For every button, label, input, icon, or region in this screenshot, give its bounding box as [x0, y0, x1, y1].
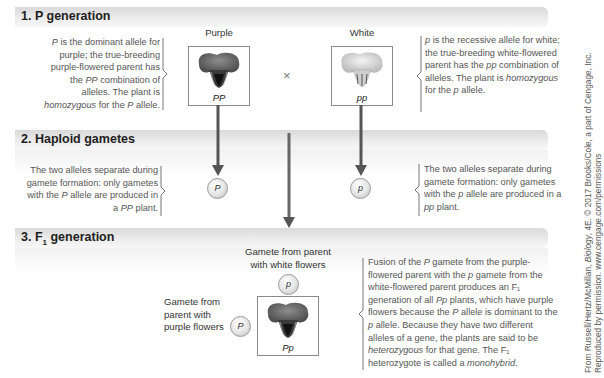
purple-flower-icon [264, 300, 312, 340]
left-brace-icon [162, 38, 168, 110]
to-f1-arrow-icon [283, 133, 295, 229]
section-number: 3. [21, 230, 31, 244]
white-to-gamete-arrow-icon [355, 105, 367, 177]
p-recessive-gamete-description: The two alleles separate during gamete f… [424, 163, 564, 213]
p-gamete-description: The two alleles separate during gamete f… [20, 164, 158, 214]
gamete-p: p [350, 178, 371, 199]
f1-flower-box: Pp [257, 296, 319, 356]
copyright-credit: From Russell/Hertz/McMillan, Biology, 4E… [583, 52, 604, 373]
white-flower-box: pp [331, 46, 393, 106]
section-title: P generation [35, 9, 110, 23]
section-title: F1 generation [35, 230, 114, 244]
section-number: 1. [21, 9, 31, 23]
gamete-P: P [207, 178, 228, 199]
p-dominant-description: P is the dominant allele for purple; the… [40, 36, 160, 112]
purple-genotype: PP [189, 92, 249, 103]
purple-to-gamete-arrow-icon [212, 105, 224, 177]
purple-parent-gamete-label: Gamete from parent with purple flowers [164, 296, 228, 334]
cross-symbol: × [283, 68, 291, 83]
purple-label: Purple [188, 27, 250, 38]
section-header-p-generation: 1. P generation [15, 7, 548, 27]
section-header-haploid-gametes: 2. Haploid gametes [15, 130, 548, 150]
f1-description: Fusion of the P gamete from the purple-f… [368, 256, 560, 369]
white-flower-icon [338, 50, 386, 90]
section-header-f1-generation: 3. F1 generation [15, 228, 548, 248]
right-brace-icon [416, 36, 422, 112]
gamete-from-white-parent: p [278, 274, 299, 295]
right-brace-icon [414, 164, 420, 216]
section-title: Haploid gametes [35, 132, 135, 146]
white-label: White [331, 27, 393, 38]
p-recessive-description: p is the recessive allele for white; the… [425, 34, 560, 97]
right-brace-icon [358, 258, 364, 370]
white-parent-gamete-label: Gamete from parent with white flowers [238, 246, 338, 271]
left-brace-icon [160, 166, 166, 216]
gamete-from-purple-parent: P [230, 316, 251, 337]
f1-genotype: Pp [258, 342, 318, 353]
white-genotype: pp [332, 92, 392, 103]
purple-flower-icon [195, 50, 243, 90]
purple-flower-box: PP [188, 46, 250, 106]
section-number: 2. [21, 132, 31, 146]
